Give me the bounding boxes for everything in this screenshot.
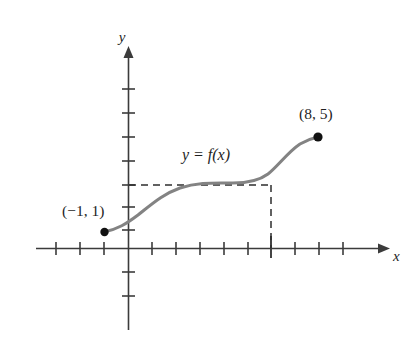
right-point-label: (8, 5)	[299, 105, 333, 123]
x-axis-group	[36, 236, 390, 258]
x-axis-label: x	[392, 248, 400, 264]
left-point-label: (−1, 1)	[62, 202, 104, 220]
function-label: y = f(x)	[180, 146, 230, 164]
right-endpoint-marker	[313, 132, 322, 141]
graph-figure: y x y = f(x) (−1, 1) (8, 5)	[0, 0, 407, 344]
y-axis-group	[122, 46, 135, 330]
left-endpoint-marker	[100, 228, 108, 236]
y-axis-label: y	[117, 29, 126, 45]
y-axis-arrowhead	[124, 46, 134, 58]
x-axis-arrowhead	[378, 244, 390, 254]
guide-lines-group	[129, 185, 271, 248]
coordinate-plane-svg: y x y = f(x) (−1, 1) (8, 5)	[0, 0, 407, 344]
